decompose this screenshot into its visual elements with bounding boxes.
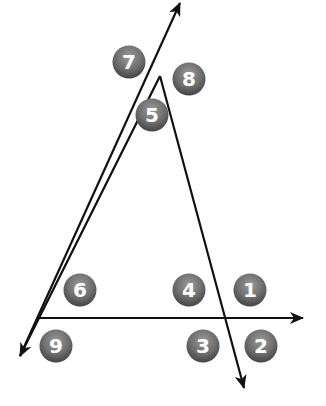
badges-layer: 123456789 — [40, 46, 278, 363]
angle-badge-5: 5 — [136, 99, 169, 132]
badge-label: 3 — [196, 334, 210, 358]
badge-label: 6 — [73, 278, 87, 302]
angle-diagram: 123456789 — [0, 0, 326, 406]
angle-badge-3: 3 — [187, 330, 220, 363]
badge-label: 5 — [145, 103, 159, 127]
angle-badge-4: 4 — [173, 274, 206, 307]
angle-badge-1: 1 — [234, 274, 267, 307]
left-line — [20, 3, 180, 356]
badge-label: 8 — [182, 67, 196, 91]
angle-badge-8: 8 — [173, 63, 206, 96]
angle-badge-7: 7 — [113, 46, 146, 79]
badge-label: 1 — [243, 278, 257, 302]
angle-badge-9: 9 — [40, 330, 73, 363]
badge-label: 7 — [122, 50, 136, 74]
badge-label: 2 — [254, 334, 268, 358]
badge-label: 4 — [182, 278, 196, 302]
badge-label: 9 — [49, 334, 63, 358]
angle-badge-2: 2 — [245, 330, 278, 363]
angle-badge-6: 6 — [64, 274, 97, 307]
